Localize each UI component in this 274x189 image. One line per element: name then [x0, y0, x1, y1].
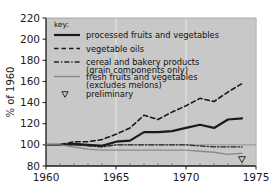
legend-label-0: processed fruits and vegetables — [86, 30, 219, 40]
chart-figure: 801001201401601802002201960196519701975%… — [0, 0, 274, 189]
ytick-label-220: 220 — [20, 12, 40, 24]
line-chart: 801001201401601802002201960196519701975%… — [0, 0, 274, 189]
ytick-label-80: 80 — [27, 160, 40, 172]
legend-sublabel-3: (excludes melons) — [86, 80, 162, 90]
xtick-label-1970: 1970 — [173, 171, 200, 183]
ytick-label-120: 120 — [20, 117, 40, 129]
xtick-label-1975: 1975 — [243, 171, 270, 183]
xtick-label-1965: 1965 — [103, 171, 130, 183]
y-axis-label: % of 1960 — [5, 67, 16, 118]
ytick-label-160: 160 — [20, 75, 40, 87]
legend-title: key: — [54, 20, 69, 29]
ytick-label-140: 140 — [20, 96, 40, 108]
ytick-label-100: 100 — [20, 138, 40, 150]
legend-label-4: preliminary — [86, 89, 133, 99]
ytick-label-200: 200 — [20, 33, 40, 45]
ytick-label-180: 180 — [20, 54, 40, 66]
legend-label-1: vegetable oils — [86, 44, 144, 54]
xtick-label-1960: 1960 — [33, 171, 60, 183]
